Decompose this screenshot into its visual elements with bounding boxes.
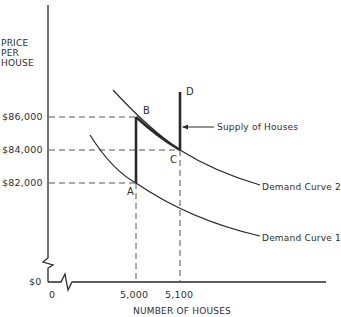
x-tick-0: 0 — [49, 290, 55, 300]
y-axis-title: PRICE PER HOUSE — [1, 38, 34, 68]
y-tick-84000: $84,000 — [2, 145, 43, 155]
demand-curve-1-label: Demand Curve 1 — [262, 233, 341, 243]
y-axis-title-line-1: PRICE — [1, 38, 34, 48]
supply-label: Supply of Houses — [217, 122, 298, 132]
point-label-b: B — [143, 106, 150, 116]
x-tick-5000: 5,000 — [120, 290, 148, 300]
y-axis — [43, 5, 53, 282]
y-axis-title-line-3: HOUSE — [1, 58, 34, 68]
supply-arrow — [182, 125, 214, 130]
y-axis-title-line-2: PER — [1, 48, 34, 58]
y-tick-0: $0 — [29, 277, 42, 287]
supply-demand-chart: PRICE PER HOUSE $86,000 $84,000 $82,000 … — [0, 0, 341, 317]
x-tick-5100: 5,100 — [165, 290, 193, 300]
point-label-d: D — [186, 87, 194, 97]
point-label-c: C — [170, 155, 177, 165]
y-tick-82000: $82,000 — [2, 178, 43, 188]
reference-lines — [49, 117, 180, 281]
x-axis — [48, 274, 326, 290]
demand-curve-2-label: Demand Curve 2 — [262, 182, 341, 192]
point-label-a: A — [127, 187, 134, 197]
x-axis-title: NUMBER OF HOUSES — [133, 306, 231, 316]
y-tick-86000: $86,000 — [2, 112, 43, 122]
